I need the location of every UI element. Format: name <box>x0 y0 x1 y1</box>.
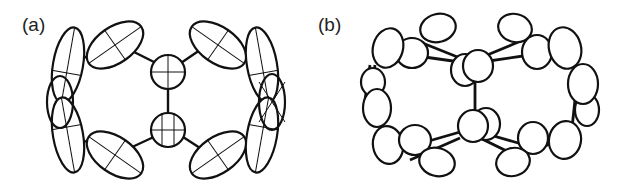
ellipsoid-ul <box>78 12 151 78</box>
atom-center-top <box>463 50 493 82</box>
ellipsoid-lr <box>181 122 254 188</box>
atom-b13 <box>568 64 598 104</box>
atom-center-bottom <box>458 110 488 142</box>
ellipsoid-right-bottom <box>241 95 284 175</box>
ellipsoid-ll <box>78 122 151 188</box>
ellipsoid-right-top <box>241 25 284 105</box>
central-atom-top <box>151 55 185 89</box>
atom-b16 <box>546 119 584 162</box>
atom-b5 <box>363 89 391 127</box>
atom-b1 <box>417 10 459 46</box>
atom-b10 <box>522 35 552 69</box>
ellipsoid-ur <box>181 12 254 78</box>
molecule-diagram-b <box>310 0 618 192</box>
central-atom-bottom <box>151 113 185 147</box>
panel-b: (b) <box>310 0 618 192</box>
ellipsoid-left-top <box>47 25 90 105</box>
ellipsoid-left-bottom <box>47 95 90 175</box>
molecule-diagram-a <box>0 0 310 192</box>
panel-a: (a) <box>0 0 310 192</box>
